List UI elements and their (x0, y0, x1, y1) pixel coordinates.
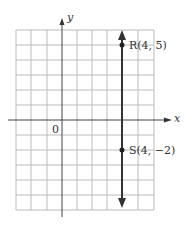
x-axis-label: x (174, 112, 180, 125)
coordinate-plane (0, 0, 192, 230)
origin-label: 0 (52, 123, 59, 136)
point-s-label: S(4, −2) (129, 144, 175, 157)
point-r-label: R(4, 5) (129, 39, 167, 52)
point-s (120, 148, 125, 153)
point-r (120, 43, 125, 48)
y-axis (60, 18, 65, 217)
y-axis-label: y (67, 11, 73, 24)
x-axis (8, 118, 172, 123)
vertical-line-x4 (118, 30, 126, 208)
